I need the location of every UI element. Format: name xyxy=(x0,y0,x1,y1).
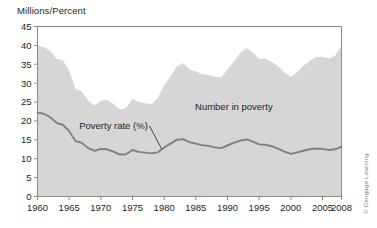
x-axis-tick-label: 2005 xyxy=(312,202,333,213)
y-axis-tick-label: 10 xyxy=(21,153,32,164)
copyright-credit: © Cengage Learning xyxy=(350,71,357,132)
x-axis-tick-label: 1960 xyxy=(27,202,48,213)
x-axis-tick-label: 2008 xyxy=(331,202,352,213)
chart-plot-area: 0510152025303540451960196519701975198019… xyxy=(0,0,377,228)
y-axis-tick-label: 20 xyxy=(21,115,32,126)
y-axis-tick-label: 25 xyxy=(21,96,32,107)
x-axis-tick-label: 1990 xyxy=(217,202,238,213)
annotation-number-in-poverty: Number in poverty xyxy=(195,101,273,112)
y-axis-tick-label: 15 xyxy=(21,134,32,145)
poverty-chart-figure: Millions/Percent 05101520253035404519601… xyxy=(0,0,377,228)
x-axis-tick-label: 1980 xyxy=(154,202,175,213)
y-axis-tick-label: 45 xyxy=(21,21,32,32)
x-axis-tick-label: 1995 xyxy=(249,202,270,213)
y-axis-tick-label: 40 xyxy=(21,40,32,51)
y-axis-tick-label: 35 xyxy=(21,59,32,70)
x-axis-tick-label: 1975 xyxy=(122,202,143,213)
y-axis-tick-label: 5 xyxy=(26,172,31,183)
x-axis-tick-label: 2000 xyxy=(280,202,301,213)
x-axis-tick-label: 1970 xyxy=(90,202,111,213)
x-axis-tick-label: 1965 xyxy=(59,202,80,213)
y-axis-tick-label: 30 xyxy=(21,78,32,89)
x-axis-tick-label: 1985 xyxy=(185,202,206,213)
y-axis-tick-label: 0 xyxy=(26,191,31,202)
annotation-poverty-rate: Poverty rate (%) xyxy=(79,120,148,131)
